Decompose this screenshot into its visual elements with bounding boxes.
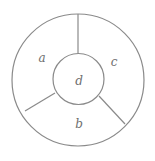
- region-label-c: c: [111, 56, 118, 68]
- annulus-diagram: a b c d: [0, 0, 155, 161]
- region-label-b: b: [75, 118, 83, 130]
- region-label-a: a: [38, 52, 45, 64]
- divider-lower-right: [99, 96, 125, 124]
- divider-lower-left: [25, 93, 55, 111]
- region-label-d: d: [75, 75, 83, 87]
